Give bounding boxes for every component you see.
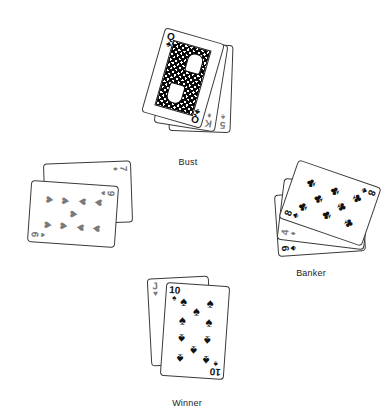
- hearts-pips: ♥ ♥ ♥ ♥ ♥ ♥ ♥ ♥ ♥: [39, 194, 107, 235]
- queen-portrait-icon: [154, 40, 211, 116]
- spades-pips: ♠ ♠ ♠ ♠ ♠ ♠ ♠ ♠ ♠ ♠: [174, 294, 217, 368]
- hand-label-bust: Bust: [179, 157, 198, 167]
- clubs-pips: ♣ ♣ ♣ ♣ ♣ ♣ ♣ ♣: [293, 175, 367, 231]
- card-10-spades[interactable]: 10♠ 10♠ ♠ ♠ ♠ ♠ ♠ ♠ ♠ ♠ ♠ ♠: [160, 282, 230, 380]
- card-9-hearts[interactable]: 9♥ 9♥ ♥ ♥ ♥ ♥ ♥ ♥ ♥ ♥ ♥: [27, 180, 119, 248]
- hand-label-winner: Winner: [172, 398, 202, 408]
- hand-label-banker: Banker: [296, 268, 326, 278]
